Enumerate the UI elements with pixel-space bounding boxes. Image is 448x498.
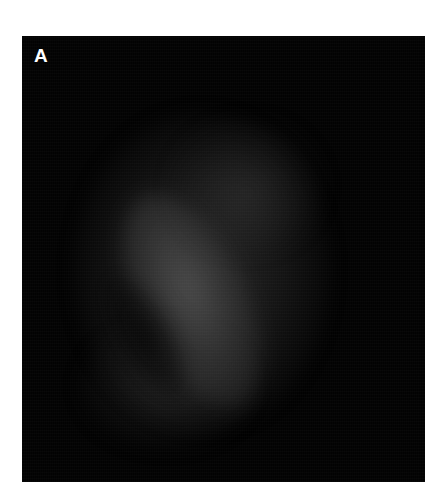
micrograph-panel: A xyxy=(22,36,425,482)
panel-label: A xyxy=(34,46,48,65)
figure: A xyxy=(0,0,448,498)
